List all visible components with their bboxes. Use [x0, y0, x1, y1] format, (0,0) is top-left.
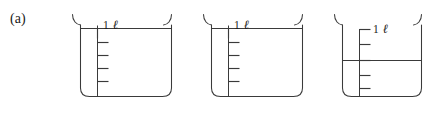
beaker-figure: (a) 1ℓ [0, 0, 430, 117]
beaker-3-rim-right [414, 15, 422, 26]
beaker-3-unit-symbol: ℓ [383, 22, 388, 36]
beaker-3: 1ℓ [0, 0, 430, 117]
beaker-3-group: 1ℓ [335, 15, 422, 97]
beaker-3-volume-label: 1ℓ [373, 22, 388, 36]
beaker-3-volume-number: 1 [373, 23, 379, 35]
beaker-3-rim-left [335, 15, 343, 26]
